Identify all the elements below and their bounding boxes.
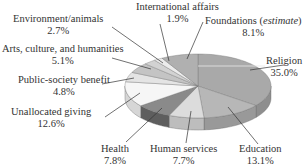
label-name: Education [239, 143, 282, 154]
label-environment-animals: Environment/animals 2.7% [13, 13, 103, 37]
label-name: Public-society benefit [18, 74, 110, 85]
label-pct: 7.7% [150, 155, 217, 167]
label-name: Environment/animals [13, 13, 103, 24]
label-name: Health [101, 143, 129, 154]
label-pct: 7.8% [101, 155, 129, 167]
label-human-services: Human services 7.7% [150, 143, 217, 167]
label-health: Health 7.8% [101, 143, 129, 167]
label-name: International affairs [136, 1, 219, 12]
label-pct: 12.6% [11, 118, 91, 130]
label-education: Education 13.1% [239, 143, 282, 167]
label-pct: 8.1% [205, 27, 302, 39]
label-pct: 2.7% [13, 25, 103, 37]
label-pct: 35.0% [266, 67, 302, 79]
label-name: Human services [150, 143, 217, 154]
label-name: Arts, culture, and humanities [2, 43, 124, 54]
label-pct: 4.8% [18, 86, 110, 98]
label-name: Unallocated giving [11, 106, 91, 117]
pie-top-faces [125, 54, 271, 118]
label-unallocated-giving: Unallocated giving 12.6% [11, 106, 91, 130]
label-pct: 5.1% [2, 55, 124, 67]
label-foundations: Foundations (estimate) 8.1% [205, 15, 302, 39]
label-name: Foundations [205, 15, 257, 26]
label-note: estimate [263, 15, 298, 26]
label-religion: Religion 35.0% [266, 55, 302, 79]
label-public-society-benefit: Public-society benefit 4.8% [18, 74, 110, 98]
label-arts-culture-humanities: Arts, culture, and humanities 5.1% [2, 43, 124, 67]
leader-international [160, 24, 169, 61]
leader-foundations [187, 22, 203, 59]
label-name: Religion [266, 55, 302, 66]
label-pct: 13.1% [239, 155, 282, 167]
